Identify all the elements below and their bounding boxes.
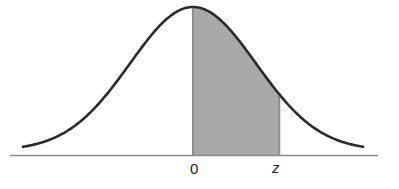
tick-label-z: z [272,160,280,175]
shaded-area-0-to-z [193,7,279,155]
bell-curve-plot [0,0,399,189]
tick-label-zero: 0 [190,161,198,176]
normal-distribution-figure: 0 z [0,0,399,189]
